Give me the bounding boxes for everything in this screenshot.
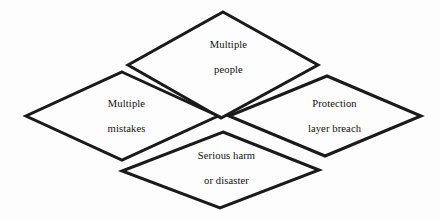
diagram-canvas: Multiple people Multiple mistakes Protec… [0,0,441,221]
diamond-cluster-diagram [0,0,441,221]
